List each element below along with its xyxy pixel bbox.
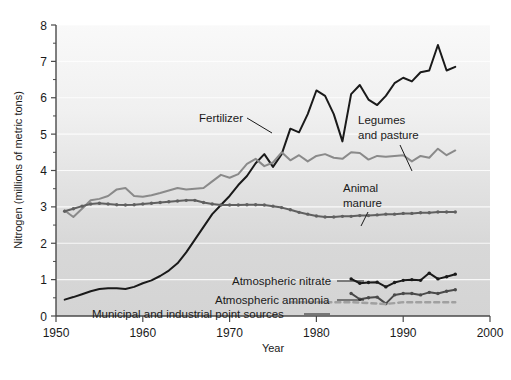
data-point	[419, 279, 422, 282]
data-point	[384, 285, 387, 288]
x-tick-label: 1960	[129, 326, 156, 340]
series-annotation-label: Municipal and industrial point sources	[92, 308, 284, 320]
data-point	[393, 212, 396, 215]
x-tick-label: 1990	[390, 326, 417, 340]
data-point	[202, 201, 205, 204]
data-point	[445, 290, 448, 293]
data-point	[263, 203, 266, 206]
data-point	[72, 207, 75, 210]
data-point	[358, 214, 361, 217]
series-annotation-label: Animal	[343, 182, 378, 194]
data-point	[375, 280, 378, 283]
data-point	[375, 213, 378, 216]
data-point	[367, 296, 370, 299]
y-tick-label: 4	[40, 164, 47, 178]
series-annotation-label: and pasture	[358, 129, 419, 141]
data-point	[245, 203, 248, 206]
data-point	[402, 279, 405, 282]
data-point	[115, 203, 118, 206]
data-point	[280, 206, 283, 209]
data-point	[402, 292, 405, 295]
data-point	[271, 204, 274, 207]
data-point	[349, 215, 352, 218]
data-point	[211, 202, 214, 205]
data-point	[436, 292, 439, 295]
y-axis-title: Nitrogen (millions of metric tons)	[12, 91, 24, 249]
y-tick-label: 8	[40, 19, 47, 33]
series-annotation-label: manure	[343, 197, 382, 209]
data-point	[332, 215, 335, 218]
y-tick-label: 3	[40, 200, 47, 214]
data-point	[410, 212, 413, 215]
x-tick-label: 1970	[216, 326, 243, 340]
series-annotation-label: Atmospheric ammonia	[215, 294, 330, 306]
data-point	[124, 203, 127, 206]
data-point	[375, 295, 378, 298]
data-point	[306, 212, 309, 215]
data-point	[428, 211, 431, 214]
data-point	[454, 272, 457, 275]
data-point	[323, 215, 326, 218]
data-point	[410, 278, 413, 281]
data-point	[436, 210, 439, 213]
data-point	[98, 202, 101, 205]
data-point	[89, 202, 92, 205]
x-tick-label: 2000	[477, 326, 504, 340]
data-point	[63, 210, 66, 213]
series-annotation-label: Legumes	[358, 114, 406, 126]
nitrogen-sources-line-chart: 012345678 195019601970198019902000 Ferti…	[0, 0, 511, 380]
data-point	[402, 212, 405, 215]
data-point	[228, 203, 231, 206]
data-point	[254, 203, 257, 206]
x-axis-title: Year	[262, 342, 285, 354]
data-point	[289, 208, 292, 211]
data-point	[219, 203, 222, 206]
data-point	[185, 199, 188, 202]
data-point	[428, 271, 431, 274]
data-point	[349, 277, 352, 280]
data-point	[141, 202, 144, 205]
y-tick-label: 5	[40, 128, 47, 142]
data-point	[297, 211, 300, 214]
data-point	[193, 199, 196, 202]
series-annotation-label: Fertilizer	[199, 112, 243, 124]
series-annotation-label: Atmospheric nitrate	[232, 275, 331, 287]
data-point	[358, 282, 361, 285]
data-point	[150, 202, 153, 205]
data-point	[237, 203, 240, 206]
x-tick-label: 1950	[43, 326, 70, 340]
data-point	[341, 215, 344, 218]
data-point	[315, 214, 318, 217]
data-point	[410, 292, 413, 295]
data-point	[445, 210, 448, 213]
data-point	[393, 281, 396, 284]
data-point	[176, 199, 179, 202]
data-point	[419, 293, 422, 296]
data-point	[132, 203, 135, 206]
data-point	[454, 288, 457, 291]
data-point	[436, 277, 439, 280]
data-point	[428, 291, 431, 294]
data-point	[349, 292, 352, 295]
y-tick-label: 7	[40, 55, 47, 69]
y-tick-label: 2	[40, 237, 47, 251]
x-tick-label: 1980	[303, 326, 330, 340]
data-point	[419, 211, 422, 214]
data-point	[384, 212, 387, 215]
data-point	[158, 201, 161, 204]
y-tick-label: 1	[40, 273, 47, 287]
data-point	[80, 204, 83, 207]
data-point	[367, 281, 370, 284]
data-point	[167, 200, 170, 203]
data-point	[454, 210, 457, 213]
y-tick-label: 6	[40, 91, 47, 105]
y-tick-label: 0	[40, 310, 47, 324]
data-point	[445, 275, 448, 278]
data-point	[393, 293, 396, 296]
data-point	[106, 202, 109, 205]
